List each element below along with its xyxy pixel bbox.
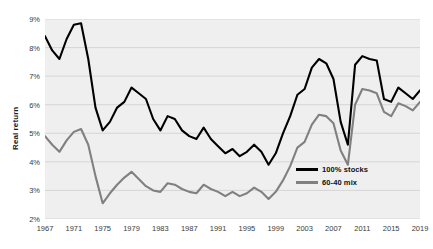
x-tick-label: 1995 xyxy=(239,224,256,233)
x-axis-tick-labels: 1967197119751979198319871991199519992003… xyxy=(0,224,433,240)
y-tick-label: 5% xyxy=(18,129,40,138)
legend-swatch xyxy=(296,181,318,184)
x-tick-label: 2015 xyxy=(383,224,400,233)
legend-label: 60-40 mix xyxy=(322,178,357,187)
real-return-line-chart: Real return 9%8%7%6%5%4%3%2% 19671971197… xyxy=(0,0,433,249)
x-tick-label: 2003 xyxy=(296,224,313,233)
x-tick-label: 1979 xyxy=(123,224,140,233)
x-tick-label: 1967 xyxy=(37,224,54,233)
legend-item: 60-40 mix xyxy=(296,176,368,189)
y-tick-label: 2% xyxy=(18,215,40,224)
plot-svg xyxy=(45,19,420,219)
y-tick-label: 6% xyxy=(18,100,40,109)
y-tick-label: 3% xyxy=(18,186,40,195)
x-tick-label: 1987 xyxy=(181,224,198,233)
y-axis-tick-labels: 9%8%7%6%5%4%3%2% xyxy=(18,0,40,249)
x-tick-label: 1975 xyxy=(94,224,111,233)
legend-item: 100% stocks xyxy=(296,163,368,176)
x-tick-label: 2011 xyxy=(354,224,370,233)
x-tick-label: 2007 xyxy=(325,224,342,233)
y-tick-label: 7% xyxy=(18,72,40,81)
x-tick-label: 1971 xyxy=(66,224,83,233)
y-tick-label: 9% xyxy=(18,15,40,24)
x-tick-label: 1991 xyxy=(210,224,227,233)
series-line-100-stocks xyxy=(45,23,420,164)
y-tick-label: 8% xyxy=(18,43,40,52)
y-tick-label: 4% xyxy=(18,157,40,166)
x-tick-label: 1983 xyxy=(152,224,169,233)
chart-legend: 100% stocks60-40 mix xyxy=(296,163,368,189)
x-tick-label: 2019 xyxy=(412,224,429,233)
x-tick-label: 1999 xyxy=(267,224,284,233)
legend-label: 100% stocks xyxy=(322,165,368,174)
plot-area xyxy=(45,19,420,219)
legend-swatch xyxy=(296,168,318,171)
